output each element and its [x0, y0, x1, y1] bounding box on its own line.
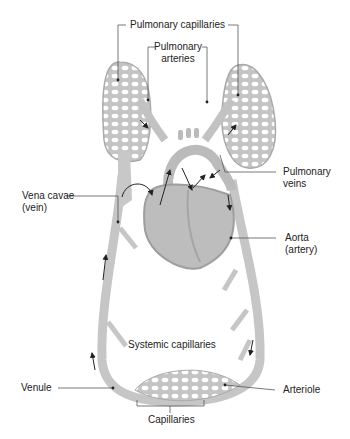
vena-cava: [118, 150, 132, 210]
label-pulmonary-veins-line1: Pulmonary: [283, 166, 331, 178]
label-capillaries: Capillaries: [148, 414, 195, 426]
label-vena-cavae-line2: (vein): [22, 202, 74, 214]
label-vena-cavae-line1: Vena cavae: [22, 190, 74, 202]
label-venule: Venule: [21, 382, 52, 394]
label-systemic-capillaries: Systemic capillaries: [128, 339, 216, 351]
label-pulmonary-arteries-line2: arteries: [152, 53, 204, 65]
label-pulmonary-capillaries: Pulmonary capillaries: [130, 19, 225, 31]
label-aorta: Aorta (artery): [285, 232, 317, 256]
label-vena-cavae: Vena cavae (vein): [22, 190, 74, 214]
label-aorta-line2: (artery): [285, 244, 317, 256]
right-lung-capillary-bed: [222, 64, 276, 168]
label-arteriole: Arteriole: [283, 384, 320, 396]
label-aorta-line1: Aorta: [285, 232, 317, 244]
label-pulmonary-veins-line2: veins: [283, 178, 331, 190]
label-pulmonary-veins: Pulmonary veins: [283, 166, 331, 190]
circulatory-system-diagram: [0, 0, 350, 439]
label-pulmonary-arteries-line1: Pulmonary: [152, 41, 204, 53]
label-pulmonary-arteries: Pulmonary arteries: [152, 41, 204, 65]
heart: [144, 184, 234, 268]
